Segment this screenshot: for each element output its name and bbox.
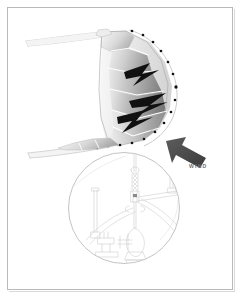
sail-body [58,28,178,150]
detail-inset [69,152,201,265]
attachment-point [131,142,134,145]
detail-inset-border [69,153,180,264]
rod-index-mark [133,194,137,197]
attachment-point [172,73,175,76]
attachment-point [152,41,155,44]
hook-fitting [186,178,192,188]
wind-label: WIND [189,163,207,169]
hook-fitting [189,178,194,190]
attachment-point [131,30,134,33]
attachment-point [174,85,177,88]
attachment-point [142,34,145,37]
attachment-point [160,50,163,53]
illustration-page: WIND [0,0,242,299]
sail-panel-foot [58,138,119,150]
boom-track-end [196,188,200,194]
attachment-point [167,61,170,64]
sail-illustration [0,0,242,299]
attachment-point [163,122,166,125]
attachment-point [154,131,157,134]
attachment-point [174,99,177,102]
attachment-point [170,111,173,114]
attachment-point [143,138,146,141]
